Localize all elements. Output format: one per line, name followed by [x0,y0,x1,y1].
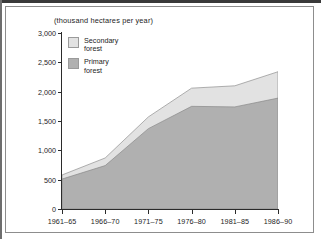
x-tick-mark [105,210,106,214]
x-tick-label: 1976–80 [177,217,206,226]
x-tick-label: 1961–65 [48,217,77,226]
legend-label: Primary forest [84,58,109,74]
x-tick-mark [192,210,193,214]
figure-border-left [0,0,2,239]
legend-item: Secondary forest [68,37,118,53]
x-tick-label: 1981–85 [220,217,249,226]
x-tick-mark [148,210,149,214]
y-tick-label: 3,000 [38,29,56,38]
y-tick-label: 2,000 [38,87,56,96]
chart-figure: (thousand hectares per year) 05001,0001,… [0,0,321,239]
y-tick-label: 2,500 [38,58,56,67]
chart-legend: Secondary forestPrimary forest [68,37,118,80]
legend-label: Secondary forest [84,37,118,53]
x-tick-label: 1966–70 [91,217,120,226]
x-axis-line [61,209,279,210]
y-tick-label: 1,000 [38,146,56,155]
x-tick-label: 1986–90 [264,217,293,226]
x-tick-label: 1971–75 [134,217,163,226]
y-tick-label: 500 [44,175,56,184]
chart-title: (thousand hectares per year) [54,16,153,25]
legend-swatch [68,58,79,69]
legend-item: Primary forest [68,58,118,74]
legend-swatch [68,37,79,48]
y-tick-label: 1,500 [38,117,56,126]
x-tick-mark [278,210,279,214]
x-tick-mark [62,210,63,214]
y-tick-label: 0 [52,205,56,214]
x-tick-mark [235,210,236,214]
figure-border-top [0,0,321,3]
